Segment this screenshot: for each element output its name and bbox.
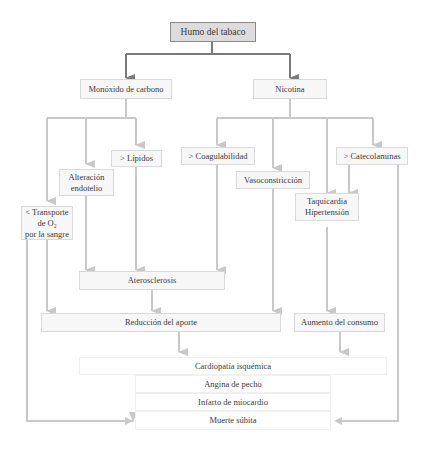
node-transporte-o2: < Transporte de O₂ por la sangre bbox=[21, 206, 73, 240]
node-label: > Catecolaminas bbox=[344, 151, 401, 162]
node-lipidos: > Lípidos bbox=[111, 150, 162, 167]
node-muerte-subita: Muerte súbita bbox=[135, 411, 331, 430]
node-label: Taquicardia Hipertensión bbox=[305, 196, 349, 218]
node-catecolaminas: > Catecolaminas bbox=[336, 147, 408, 165]
node-label: Angina de pecho bbox=[204, 379, 262, 390]
node-taquicardia-hipertension: Taquicardia Hipertensión bbox=[295, 193, 359, 221]
node-label: Monóxido de carbono bbox=[88, 84, 163, 95]
node-humo-del-tabaco: Humo del tabaco bbox=[170, 22, 256, 42]
node-angina-de-pecho: Angina de pecho bbox=[135, 375, 331, 393]
node-aumento-del-consumo: Aumento del consumo bbox=[294, 313, 385, 332]
node-label: > Coagulabilidad bbox=[189, 151, 248, 162]
node-label: Nicotina bbox=[275, 84, 304, 95]
node-label: Alteración endotelio bbox=[69, 172, 105, 194]
node-coagulabilidad: > Coagulabilidad bbox=[181, 147, 255, 165]
node-label: Cardiopatía isquémica bbox=[195, 361, 271, 372]
node-label: Aterosclerosis bbox=[128, 275, 177, 286]
node-label: < Transporte de O₂ por la sangre bbox=[25, 207, 69, 240]
node-vasoconstriccion: Vasoconstricción bbox=[236, 171, 310, 189]
node-label: Infarto de miocardio bbox=[198, 397, 268, 408]
node-label: Humo del tabaco bbox=[181, 27, 246, 38]
node-aterosclerosis: Aterosclerosis bbox=[79, 271, 225, 290]
node-alteracion-endotelio: Alteración endotelio bbox=[59, 169, 114, 196]
node-label: Vasoconstricción bbox=[244, 175, 302, 186]
node-nicotina: Nicotina bbox=[253, 79, 327, 99]
node-label: Aumento del consumo bbox=[301, 317, 378, 328]
node-label: > Lípidos bbox=[120, 153, 153, 164]
node-label: Muerte súbita bbox=[210, 415, 257, 426]
node-infarto-de-miocardio: Infarto de miocardio bbox=[135, 393, 331, 411]
node-label: Reducción del aporte bbox=[125, 317, 197, 328]
node-monoxido-de-carbono: Monóxido de carbono bbox=[80, 79, 172, 99]
tobacco-smoke-diagram: Humo del tabaco Monóxido de carbono Nico… bbox=[0, 0, 425, 449]
node-reduccion-del-aporte: Reducción del aporte bbox=[41, 313, 281, 332]
node-cardiopatia-isquemica: Cardiopatía isquémica bbox=[79, 357, 387, 375]
